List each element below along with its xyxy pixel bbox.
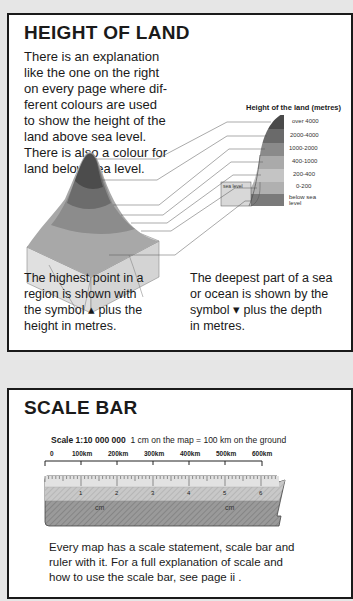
text-line: The highest point in a: [24, 270, 174, 286]
legend-label: 400-1000: [292, 158, 317, 164]
cm-tick-label: 4: [187, 490, 190, 496]
legend-label: below sea level: [289, 194, 319, 206]
cm-tick-label: 2: [115, 490, 118, 496]
sea-level-label: sea level: [223, 183, 243, 189]
text-line: the symbol ▴ plus the: [24, 302, 174, 318]
cm-tick-label: 5: [223, 490, 226, 496]
cm-unit-label: cm: [225, 504, 234, 511]
km-scale-bar: [45, 461, 262, 466]
legend-label: 1000-2000: [289, 145, 318, 151]
deepest-point-text: The deepest part of a sea or ocean is sh…: [190, 270, 340, 334]
highest-point-text: The highest point in a region is shown w…: [24, 270, 174, 334]
scale-bar-panel: SCALE BAR Scale 1:10 000 000 1 cm on the…: [7, 388, 353, 599]
cm-tick-label: 6: [259, 490, 262, 496]
text-line: height in metres.: [24, 318, 174, 334]
text-line: ruler with it. For a full explanation of…: [49, 555, 294, 570]
text-line: in metres.: [190, 318, 340, 334]
text-line: or ocean is shown by the: [190, 286, 340, 302]
cm-tick-label: 1: [79, 490, 82, 496]
height-of-land-panel: HEIGHT OF LAND There is an explanation l…: [7, 13, 353, 352]
text-line: region is shown with: [24, 286, 174, 302]
cm-unit-label: cm: [95, 504, 104, 511]
text-line: symbol ▾ plus the depth: [190, 302, 340, 318]
legend-title: Height of the land (metres): [246, 103, 341, 112]
legend-bands: [221, 113, 284, 206]
cm-tick-label: 3: [151, 490, 154, 496]
legend-label: 0-200: [296, 183, 311, 189]
legend-label: 2000-4000: [290, 132, 319, 138]
text-line: The deepest part of a sea: [190, 270, 340, 286]
legend-label: 200-400: [293, 171, 315, 177]
ruler: [45, 476, 285, 526]
legend-label: over 4000: [292, 118, 319, 124]
scale-explanation: Every map has a scale statement, scale b…: [49, 540, 294, 585]
text-line: Every map has a scale statement, scale b…: [49, 540, 294, 555]
text-line: how to use the scale bar, see page ii .: [49, 570, 294, 585]
